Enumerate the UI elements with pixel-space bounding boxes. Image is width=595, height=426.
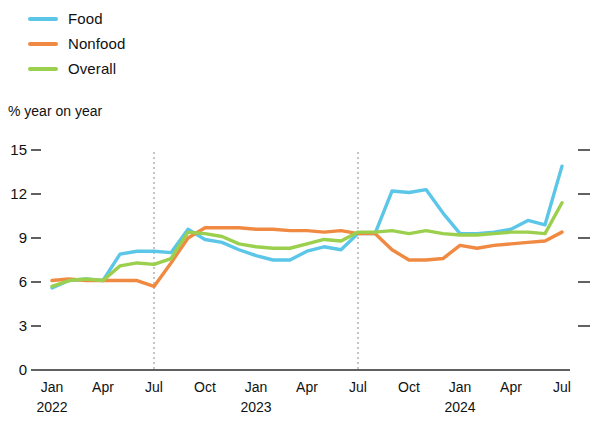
reference-lines [154,152,358,370]
chart-plot-area: 15129630 Jan2022AprJulOctJan2023AprJulOc… [0,0,595,426]
y-tick-label: 0 [19,361,27,378]
x-tick-label: Jan [41,379,64,395]
y-tick-label: 15 [10,141,27,158]
x-tick-label: Oct [194,379,216,395]
y-axis-ticks: 15129630 [10,141,41,378]
x-tick-label: Jan [245,379,268,395]
x-tick-label: Jul [145,379,163,395]
y-tick-label: 12 [10,185,27,202]
x-tick-label: Apr [500,379,522,395]
x-tick-label: Jan [449,379,472,395]
x-tick-year-label: 2024 [444,399,475,415]
y-tick-label: 9 [19,229,27,246]
x-tick-label: Jul [553,379,571,395]
x-tick-label: Apr [92,379,114,395]
x-tick-label: Oct [398,379,420,395]
x-tick-label: Jul [349,379,367,395]
x-tick-year-label: 2022 [36,399,67,415]
y-axis-ticks-right [578,150,590,326]
series-line-overall [52,203,562,287]
series-line-nonfood [52,228,562,287]
chart-container: Food Nonfood Overall % year on year 1512… [0,0,595,426]
x-tick-label: Apr [296,379,318,395]
y-tick-label: 3 [19,317,27,334]
y-tick-label: 6 [19,273,27,290]
series-line-food [52,166,562,288]
x-axis-labels: Jan2022AprJulOctJan2023AprJulOctJan2024A… [36,379,571,415]
chart-series-group [52,166,562,288]
x-tick-year-label: 2023 [240,399,271,415]
